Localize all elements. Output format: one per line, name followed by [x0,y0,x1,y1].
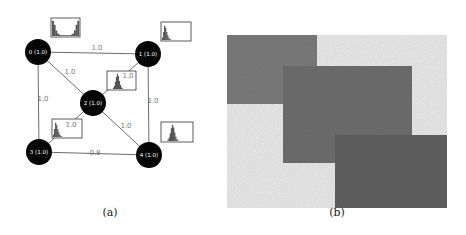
node-3: 3 (1.0) [26,139,52,165]
edge-weight-label: 1.0 [91,44,102,52]
node-label: 3 (1.0) [30,149,48,155]
histogram-node-4 [161,122,193,142]
node-0: 0 (1.0) [25,39,51,65]
edge-weight-label: 0.8 [89,149,100,157]
histogram-bar [177,140,178,141]
histogram-bar [74,30,76,36]
histogram-bar [69,35,71,36]
panel-b-rectangles [227,35,447,208]
node-2: 2 (1.0) [80,90,106,116]
rectangle-bottom-right [335,135,447,208]
histogram-bar [77,21,79,36]
edge-weight-label: 1.0 [147,97,158,105]
histogram-node-1 [161,22,191,41]
histogram-bar [52,21,54,36]
histogram-bar [60,35,62,36]
figure: 0 (1.0)1 (1.0)2 (1.0)3 (1.0)4 (1.0) 1.01… [0,0,466,235]
caption-b: (b) [329,206,345,219]
histogram-bar [72,34,74,36]
histogram-bar [59,35,61,36]
panel-a-graph: 0 (1.0)1 (1.0)2 (1.0)3 (1.0)4 (1.0) 1.01… [25,18,193,219]
node-label: 0 (1.0) [29,49,47,55]
edge-weight-label: 1.0 [65,121,76,129]
edge-weight-label: 1.0 [120,122,131,130]
histogram-bar [67,35,69,36]
histogram-bar [55,30,57,36]
node-4: 4 (1.0) [136,142,162,168]
histogram-bar [62,35,64,36]
caption-a: (a) [102,206,117,219]
edge-weight-label: 1.0 [37,95,48,103]
edge-weight-label: 1.0 [64,68,75,76]
node-1: 1 (1.0) [135,41,161,67]
histogram-bar [57,34,59,36]
node-label: 4 (1.0) [140,152,158,158]
histogram-bar [76,25,78,36]
histogram-bar [66,35,68,36]
node-label: 1 (1.0) [139,51,157,57]
edge-0-1 [38,52,148,54]
histogram-node-0 [51,18,80,37]
edge-weight-label: 1.0 [122,72,133,80]
histogram-frame [161,122,193,142]
histogram-bar [122,88,123,89]
node-label: 2 (1.0) [84,100,102,106]
histogram-bar [64,35,66,36]
histogram-bar [71,35,73,36]
histogram-bar [54,25,56,36]
